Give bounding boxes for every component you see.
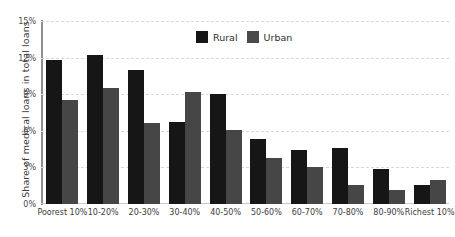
- bar-rural: [414, 185, 430, 204]
- bar-rural: [128, 70, 144, 204]
- bar-group: [128, 21, 160, 204]
- x-axis-tick-label: Poorest 10%: [37, 208, 87, 217]
- y-axis-tick-label: 3%: [5, 163, 36, 172]
- bar-group: [291, 21, 323, 204]
- y-axis-tick-label: 9%: [5, 90, 36, 99]
- y-axis-tick-label: 0%: [5, 200, 36, 209]
- bar-rural: [373, 169, 389, 204]
- bar-urban: [103, 88, 119, 204]
- legend-item-rural: Rural: [196, 31, 238, 43]
- bar-group: [87, 21, 119, 204]
- bar-urban: [266, 158, 282, 204]
- x-axis-tick-label: 80-90%: [373, 208, 404, 217]
- x-axis-tick-label: Richest 10%: [405, 208, 455, 217]
- legend-label-urban: Urban: [264, 32, 293, 43]
- plot-area: 0%3%6%9%12%15%: [41, 21, 449, 204]
- legend-swatch-rural: [196, 31, 208, 43]
- bar-rural: [291, 150, 307, 204]
- x-axis-tick-label: 50-60%: [251, 208, 282, 217]
- bar-rural: [169, 122, 185, 204]
- legend-label-rural: Rural: [213, 32, 238, 43]
- y-axis-tick-label: 6%: [5, 126, 36, 135]
- bar-urban: [144, 123, 160, 204]
- y-axis-tick-label: 15%: [5, 17, 36, 26]
- bar-group: [250, 21, 282, 204]
- bar-rural: [250, 139, 266, 204]
- bar-urban: [307, 167, 323, 204]
- bar-urban: [430, 180, 446, 204]
- x-axis-tick-label: 30-40%: [169, 208, 200, 217]
- bar-group: [46, 21, 78, 204]
- x-axis-labels: Poorest 10%10-20%20-30%30-40%40-50%50-60…: [41, 208, 449, 228]
- bar-rural: [210, 94, 226, 204]
- legend-item-urban: Urban: [247, 31, 293, 43]
- bar-rural: [87, 55, 103, 204]
- legend: Rural Urban: [196, 31, 292, 43]
- bar-group: [210, 21, 242, 204]
- bar-rural: [332, 148, 348, 204]
- bar-group: [169, 21, 201, 204]
- x-axis-tick-label: 60-70%: [292, 208, 323, 217]
- y-axis-tick-label: 12%: [5, 53, 36, 62]
- bar-urban: [348, 185, 364, 204]
- bar-group: [414, 21, 446, 204]
- bar-urban: [62, 100, 78, 204]
- bar-group: [373, 21, 405, 204]
- x-axis-tick-label: 40-50%: [210, 208, 241, 217]
- x-axis-tick-label: 20-30%: [129, 208, 160, 217]
- bar-rural: [46, 60, 62, 204]
- bar-group: [332, 21, 364, 204]
- bar-groups: [41, 21, 449, 204]
- bar-urban: [389, 190, 405, 204]
- legend-swatch-urban: [247, 31, 259, 43]
- bar-urban: [226, 130, 242, 204]
- x-axis-tick-label: 10-20%: [88, 208, 119, 217]
- bar-urban: [185, 92, 201, 204]
- x-axis-tick-label: 70-80%: [333, 208, 364, 217]
- y-axis-title: Share of medical loans in total loans: [20, 15, 31, 205]
